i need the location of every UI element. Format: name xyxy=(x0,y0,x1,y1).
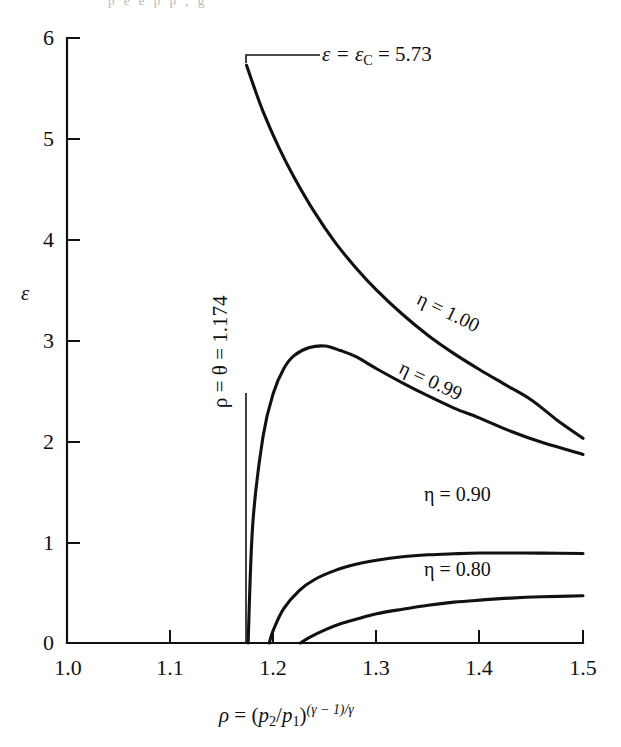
annotation-epsilon-critical: ε = εC = 5.73 xyxy=(322,44,432,67)
curve-label-eta-0-80 xyxy=(300,596,583,643)
x-axis-title-rho: ρ xyxy=(219,703,229,727)
annotation-epsilon-critical-subscript: C xyxy=(363,52,373,68)
x-axis-title-close: ) xyxy=(300,703,307,727)
x-axis-title: ρ = (p2/p1)(γ − 1)/γ xyxy=(219,703,354,728)
y-tick-label-3: 3 xyxy=(18,330,54,352)
x-tick-label-1-3: 1.3 xyxy=(355,657,397,679)
x-tick-label-1-5: 1.5 xyxy=(562,657,604,679)
y-tick-label-0: 0 xyxy=(18,632,54,654)
curve-label-eta-090: η = 0.90 xyxy=(424,484,491,504)
curve-label-eta-080: η = 0.80 xyxy=(424,559,491,579)
x-tick-label-1-2: 1.2 xyxy=(252,657,294,679)
x-axis-title-equals: = ( xyxy=(229,703,258,727)
x-tick-marks xyxy=(170,630,583,643)
x-axis-title-sub1: 1 xyxy=(292,713,299,729)
y-tick-marks xyxy=(67,38,80,543)
chart-canvas xyxy=(0,0,621,747)
y-tick-label-2: 2 xyxy=(18,431,54,453)
annotation-epsilon-critical-rhs: = 5.73 xyxy=(373,42,432,66)
x-tick-label-1-0: 1.0 xyxy=(47,657,89,679)
epsilon-critical-leader xyxy=(246,55,320,63)
y-tick-label-6: 6 xyxy=(18,27,54,49)
x-axis-title-exponent: (γ − 1)/γ xyxy=(307,702,354,717)
y-tick-label-1: 1 xyxy=(18,532,54,554)
x-tick-label-1-4: 1.4 xyxy=(458,657,500,679)
x-axis-title-p2: p xyxy=(258,703,269,727)
y-tick-label-4: 4 xyxy=(18,229,54,251)
x-axis-title-p1: p xyxy=(282,703,293,727)
y-axis-title: ε xyxy=(21,283,29,304)
x-axis-title-sub2: 2 xyxy=(269,713,276,729)
annotation-rho-theta: ρ = θ = 1.174 xyxy=(210,296,231,408)
x-tick-label-1-1: 1.1 xyxy=(149,657,191,679)
figure-container: p e e p p , g xyxy=(0,0,621,747)
y-tick-label-5: 5 xyxy=(18,128,54,150)
annotation-epsilon-critical-lhs: ε = ε xyxy=(322,42,363,66)
